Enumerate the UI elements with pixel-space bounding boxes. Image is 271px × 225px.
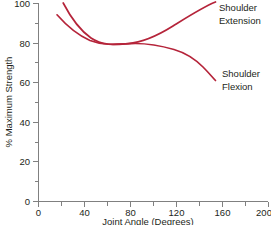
x-axis-title: Joint Angle (Degrees) (102, 216, 193, 225)
series-line-shoulder-flexion (57, 15, 216, 81)
x-tick-label-40: 40 (79, 207, 90, 218)
y-tick-label-40: 40 (19, 117, 30, 128)
chart-plot-svg: 100 80 60 40 20 0 0 40 80 120 160 200 Jo… (0, 0, 271, 225)
y-tick-label-80: 80 (19, 38, 30, 49)
series-label-extension-line1: Shoulder (219, 2, 257, 13)
x-tick-label-200: 200 (256, 207, 271, 218)
x-tick-label-0: 0 (36, 207, 41, 218)
series-label-extension-line2: Extension (219, 15, 261, 26)
chart-container: 100 80 60 40 20 0 0 40 80 120 160 200 Jo… (0, 0, 271, 225)
x-axis-minor-ticks (62, 202, 246, 206)
x-tick-label-160: 160 (215, 207, 231, 218)
y-axis-title: % Maximum Strength (3, 57, 14, 148)
y-tick-label-20: 20 (19, 156, 30, 167)
series-label-flexion-line1: Shoulder (222, 68, 260, 79)
y-tick-label-100: 100 (14, 0, 30, 9)
y-tick-label-0: 0 (25, 196, 30, 207)
series-label-flexion-line2: Flexion (222, 81, 253, 92)
y-tick-label-60: 60 (19, 77, 30, 88)
y-axis-minor-ticks (35, 23, 39, 181)
